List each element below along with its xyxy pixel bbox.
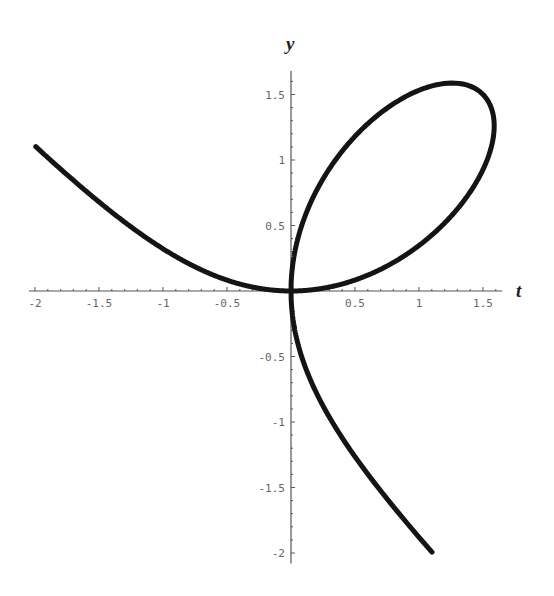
y-axis-label: y: [284, 33, 295, 54]
y-tick-label: 0.5: [265, 220, 285, 233]
x-tick-label: 0.5: [345, 297, 365, 310]
x-tick-label: 1.5: [473, 297, 493, 310]
x-tick-label: -1.5: [86, 297, 113, 310]
x-tick-label: -1: [156, 297, 169, 310]
x-tick-label: -2: [28, 297, 41, 310]
x-axis-label: t: [516, 280, 522, 301]
y-tick-label: 1.5: [265, 89, 285, 102]
y-tick-label: -1: [272, 416, 285, 429]
y-tick-label: 1: [278, 154, 285, 167]
y-tick-label: -2: [272, 547, 285, 560]
plot-area: -2-1.5-1-0.50.511.51.510.5-0.5-1-1.5-2 t…: [0, 0, 554, 596]
tick-labels: -2-1.5-1-0.50.511.51.510.5-0.5-1-1.5-2: [28, 89, 493, 561]
y-tick-label: -0.5: [259, 351, 286, 364]
x-tick-label: -0.5: [214, 297, 241, 310]
y-tick-label: -1.5: [259, 482, 286, 495]
x-tick-label: 1: [416, 297, 423, 310]
